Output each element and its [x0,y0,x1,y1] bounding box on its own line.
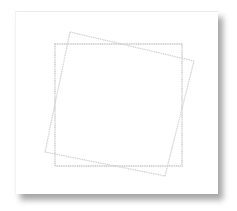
shapes-canvas [0,0,237,211]
axis-aligned-square [55,44,182,166]
rotated-square [45,32,194,176]
